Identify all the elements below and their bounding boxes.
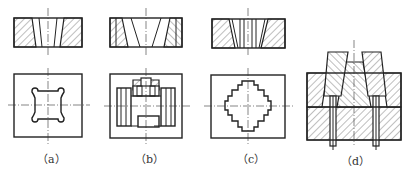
panel-a-label: （a） <box>37 150 66 166</box>
panel-b-label: （b） <box>135 150 164 166</box>
panel-b-section <box>110 8 182 55</box>
panel-c <box>204 8 293 146</box>
technical-drawing <box>0 0 408 174</box>
panel-d-label: （d） <box>341 152 370 168</box>
panel-a-plan <box>8 68 90 146</box>
panel-c-section <box>212 8 285 56</box>
panel-c-label: （c） <box>237 150 265 166</box>
panel-d <box>307 40 401 150</box>
panel-b <box>104 8 190 146</box>
panel-a-section <box>14 8 82 55</box>
panel-c-plan <box>204 68 293 146</box>
panel-a <box>8 8 90 146</box>
panel-b-plan <box>104 68 190 146</box>
